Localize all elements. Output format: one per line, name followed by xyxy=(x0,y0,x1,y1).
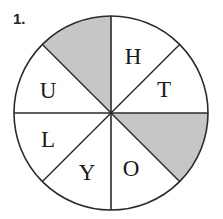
letter-wheel: H T O Y L U xyxy=(0,0,223,219)
sector-letter-t: T xyxy=(157,77,171,102)
sector-letter-u: U xyxy=(40,78,57,103)
sector-letter-o: O xyxy=(123,156,140,181)
sector-letter-y: Y xyxy=(79,160,96,185)
sector-letter-h: H xyxy=(125,44,142,69)
sector-letter-l: L xyxy=(41,127,55,152)
